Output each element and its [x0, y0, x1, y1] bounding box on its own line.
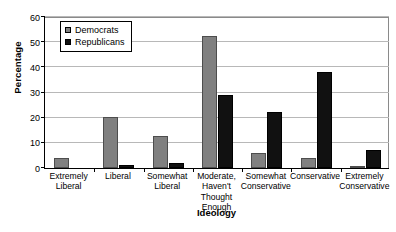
y-tick-label: 20 [30, 113, 40, 123]
x-category-label-line: Extremely [337, 171, 392, 181]
x-category-label-line: Thought [189, 192, 244, 202]
bar-democrats [251, 153, 266, 168]
x-category-label-line: Liberal [90, 171, 145, 181]
bar-group [291, 17, 340, 168]
x-category-label-line: Conservative [287, 171, 342, 181]
bar-democrats [350, 166, 365, 168]
bar-republicans [317, 72, 332, 168]
bar-democrats [301, 158, 316, 168]
bar-republicans [366, 150, 381, 168]
x-category-label-line: Somewhat [238, 171, 293, 181]
legend-swatch-democrats-icon [65, 27, 71, 33]
bar-chart: Percentage 0102030405060 ExtremelyLibera… [0, 0, 396, 232]
legend-item-republicans: Republicans [65, 36, 125, 48]
bar-group [144, 17, 193, 168]
x-category-label: ExtremelyLiberal [41, 171, 96, 192]
y-tick-label: 0 [35, 164, 40, 174]
bar-democrats [202, 36, 217, 168]
x-category-label: Liberal [90, 171, 145, 181]
legend-label-republicans: Republicans [75, 37, 125, 47]
y-tick-label: 40 [30, 63, 40, 73]
bar-group [242, 17, 291, 168]
y-axis-title: Percentage [12, 18, 23, 118]
bar-democrats [54, 158, 69, 168]
legend-label-democrats: Democrats [75, 25, 119, 35]
x-category-label-line: Liberal [41, 181, 96, 191]
y-tick-label: 10 [30, 138, 40, 148]
bar-republicans [267, 112, 282, 168]
x-category-label: Conservative [287, 171, 342, 181]
x-category-label-line: Haven't [189, 181, 244, 191]
bar-republicans [169, 163, 184, 168]
x-category-label-line: Liberal [140, 181, 195, 191]
x-category-label-line: Somewhat [140, 171, 195, 181]
x-category-label-line: Conservative [238, 181, 293, 191]
y-tick-label: 50 [30, 38, 40, 48]
bar-democrats [153, 136, 168, 168]
bar-group [193, 17, 242, 168]
bar-republicans [119, 165, 134, 168]
y-tick-label: 30 [30, 88, 40, 98]
x-category-label: SomewhatLiberal [140, 171, 195, 192]
y-tick-label: 60 [30, 13, 40, 23]
x-axis-title: Ideology [44, 207, 389, 218]
legend: Democrats Republicans [60, 21, 132, 52]
bar-democrats [103, 117, 118, 168]
x-category-label-line: Extremely [41, 171, 96, 181]
x-category-label: ExtremelyConservative [337, 171, 392, 192]
x-category-label-line: Conservative [337, 181, 392, 191]
legend-swatch-republicans-icon [65, 39, 71, 45]
x-category-label-line: Moderate, [189, 171, 244, 181]
x-category-label: SomewhatConservative [238, 171, 293, 192]
bar-group [341, 17, 390, 168]
bar-republicans [218, 95, 233, 168]
legend-item-democrats: Democrats [65, 24, 125, 36]
